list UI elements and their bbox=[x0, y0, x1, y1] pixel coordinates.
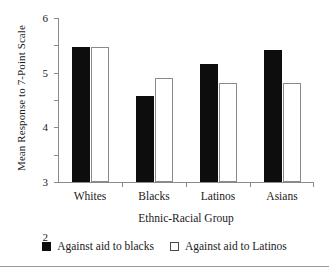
y-tick-label-6: 6 bbox=[43, 13, 49, 24]
y-tick-0: 0 bbox=[54, 182, 58, 183]
x-axis-title: Ethnic-Racial Group bbox=[58, 212, 314, 224]
y-tick-2: 2 bbox=[54, 127, 58, 128]
bar-whites-series-1 bbox=[72, 47, 90, 182]
legend-label-against-aid-to-latinos: Against aid to Latinos bbox=[185, 240, 287, 252]
bar-whites-series-2 bbox=[91, 47, 109, 182]
x-tick-2 bbox=[186, 182, 187, 187]
filled-square-icon bbox=[42, 242, 51, 251]
y-tick-6: 6 bbox=[54, 18, 58, 19]
y-tick-label-5: 5 bbox=[43, 67, 49, 78]
bar-latinos-series-2 bbox=[219, 83, 237, 182]
category-label-asians: Asians bbox=[266, 190, 297, 202]
category-label-blacks: Blacks bbox=[138, 190, 169, 202]
legend-item-against-aid-to-latinos: Against aid to Latinos bbox=[170, 240, 287, 252]
bar-blacks-series-1 bbox=[136, 96, 154, 182]
y-axis-line bbox=[58, 18, 59, 182]
legend-label-against-aid-to-blacks: Against aid to blacks bbox=[57, 240, 154, 252]
y-tick-label-3: 3 bbox=[43, 177, 49, 188]
plot-area: 0123456 bbox=[58, 18, 314, 182]
bar-asians-series-1 bbox=[264, 50, 282, 182]
bar-latinos-series-1 bbox=[200, 64, 218, 182]
category-label-latinos: Latinos bbox=[201, 190, 236, 202]
y-tick-label-4: 4 bbox=[43, 122, 49, 133]
open-square-icon bbox=[170, 242, 179, 251]
bar-asians-series-2 bbox=[283, 83, 301, 182]
y-tick-4: 4 bbox=[54, 73, 58, 74]
bar-blacks-series-2 bbox=[155, 78, 173, 182]
footer-divider bbox=[0, 266, 329, 267]
legend-item-against-aid-to-blacks: Against aid to blacks bbox=[42, 240, 154, 252]
chart-legend: Against aid to blacks Against aid to Lat… bbox=[0, 240, 329, 252]
x-tick-1 bbox=[122, 182, 123, 187]
y-tick-1: 1 bbox=[54, 155, 58, 156]
y-tick-5: 5 bbox=[54, 45, 58, 46]
y-axis-title: Mean Response to 7-Point Scale bbox=[10, 0, 32, 196]
bar-chart-figure: Mean Response to 7-Point Scale 0123456 W… bbox=[0, 0, 329, 274]
y-tick-3: 3 bbox=[54, 100, 58, 101]
x-tick-3 bbox=[250, 182, 251, 187]
category-label-whites: Whites bbox=[74, 190, 107, 202]
x-tick-end bbox=[313, 182, 314, 187]
